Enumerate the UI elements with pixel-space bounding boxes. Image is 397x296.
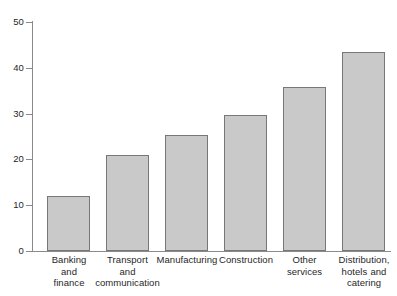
bar-other-services — [283, 87, 326, 251]
x-axis-label-line: Distribution, — [330, 254, 397, 266]
x-axis-label-line: Manufacturing — [153, 254, 221, 266]
x-axis-label-line: and — [85, 266, 170, 278]
x-axis-label-line: hotels and — [330, 266, 397, 278]
bar-manufacturing — [165, 135, 208, 251]
bar-construction — [224, 115, 267, 251]
bar-distribution-hotels-and-catering — [342, 52, 385, 251]
x-axis-label-manufacturing: Manufacturing — [153, 254, 221, 266]
y-axis-label-20: 20 — [0, 154, 24, 164]
x-axis-label-other-services: Other services — [272, 254, 337, 277]
x-axis-label-line: services — [272, 266, 337, 278]
x-axis-label-line: catering — [330, 277, 397, 289]
bar-chart: 50 40 30 20 10 0 Banking and finance Tra… — [0, 0, 397, 296]
plot-area — [33, 22, 391, 251]
y-axis-label-50: 50 — [0, 17, 24, 27]
y-axis-label-10: 10 — [0, 200, 24, 210]
x-axis-label-construction: Construction — [216, 254, 276, 266]
x-axis-label-line: Other — [272, 254, 337, 266]
bar-banking-and-finance — [47, 196, 90, 251]
x-axis-label-distribution-hotels-and-catering: Distribution, hotels and catering — [330, 254, 397, 289]
y-axis-labels: 50 40 30 20 10 0 — [0, 0, 24, 296]
y-axis-label-40: 40 — [0, 63, 24, 73]
y-axis-label-30: 30 — [0, 109, 24, 119]
y-axis-label-0: 0 — [0, 246, 24, 256]
x-axis-labels: Banking and finance Transport and commun… — [33, 254, 391, 296]
x-axis-label-line: communication — [85, 277, 170, 289]
x-axis-label-line: Construction — [216, 254, 276, 266]
bar-transport-and-communication — [106, 155, 149, 251]
x-axis-line — [32, 251, 391, 252]
